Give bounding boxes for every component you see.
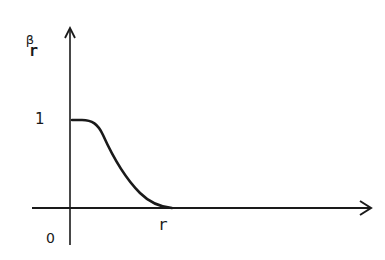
x-tick-label: r: [158, 215, 168, 234]
y-tick-label: 1: [35, 110, 45, 128]
origin-label: 0: [46, 230, 55, 246]
beta-curve: [72, 120, 172, 208]
y-axis-label-subscript: r: [29, 42, 38, 60]
plot-canvas: β r 1 0 r: [0, 0, 385, 260]
